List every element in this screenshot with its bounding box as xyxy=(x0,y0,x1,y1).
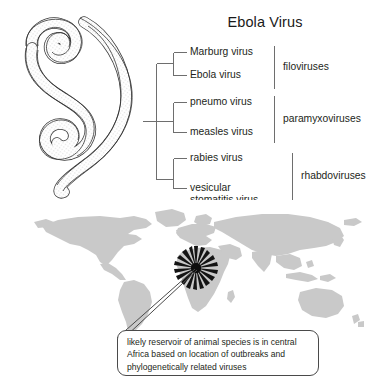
tree-taxon-pneumo-virus: pneumo virus xyxy=(190,96,252,108)
tree-group-paramyxoviruses: paramyxoviruses xyxy=(283,113,361,124)
ebola-virion-drawing xyxy=(2,4,152,199)
ebola-virus-figure: Ebola Virus xyxy=(0,0,379,386)
tree-taxon-rabies-virus: rabies virus xyxy=(190,152,243,164)
world-map xyxy=(0,200,379,340)
tree-taxon-measles-virus: measles virus xyxy=(190,126,253,138)
tree-group-rhabdoviruses: rhabdoviruses xyxy=(301,170,366,181)
callout-text: likely reservoir of animal species is in… xyxy=(127,336,315,373)
tree-group-filoviruses: filoviruses xyxy=(283,61,329,72)
tree-taxon-marburg-virus: Marburg virus xyxy=(190,46,253,58)
tree-taxon-ebola-virus: Ebola virus xyxy=(190,69,241,81)
callout-box: likely reservoir of animal species is in… xyxy=(117,330,319,376)
virus-phylogenetic-tree: Marburg virus Ebola virus pneumo virus m… xyxy=(140,42,379,202)
figure-title: Ebola Virus xyxy=(160,14,370,30)
virion-filament xyxy=(25,18,132,193)
